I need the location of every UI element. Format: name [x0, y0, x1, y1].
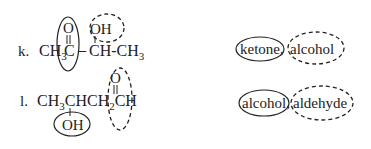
l-chain: CH3CHCH2CH	[37, 92, 137, 112]
answer-l-aldehyde: aldehyde	[293, 95, 347, 111]
k-carbonyl-carbon: C	[64, 42, 75, 59]
answer-k-ketone: ketone,	[240, 41, 284, 57]
answer-l-alcohol: alcohol,	[242, 95, 290, 111]
k-ch3-left: CH3	[39, 42, 67, 62]
problem-l: l. CH3CHCH2CH O OH	[20, 68, 137, 136]
k-hydroxyl: OH	[90, 21, 112, 37]
l-hydroxyl: OH	[62, 117, 84, 133]
problem-k: k. CH3 C – CH-CH3 O OH	[18, 14, 145, 71]
answer-l: alcohol, aldehyde	[239, 86, 353, 120]
k-carbonyl-oxygen: O	[63, 20, 74, 36]
problem-l-label: l.	[20, 93, 28, 109]
functional-group-diagram: k. CH3 C – CH-CH3 O OH l. CH3CHCH2CH O O…	[0, 0, 371, 149]
answer-k: ketone, alcohol	[236, 32, 344, 64]
k-ch-ch3: CH-CH3	[89, 42, 145, 62]
answer-k-alcohol: alcohol	[290, 41, 334, 57]
problem-k-label: k.	[18, 43, 29, 59]
